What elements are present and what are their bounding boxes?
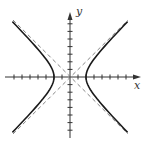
x-axis [5, 75, 141, 80]
y-axis-arrow-icon [68, 12, 73, 20]
hyperbola-diagram: x y [0, 0, 149, 147]
x-axis-label: x [134, 79, 141, 92]
y-axis-label: y [75, 5, 83, 18]
